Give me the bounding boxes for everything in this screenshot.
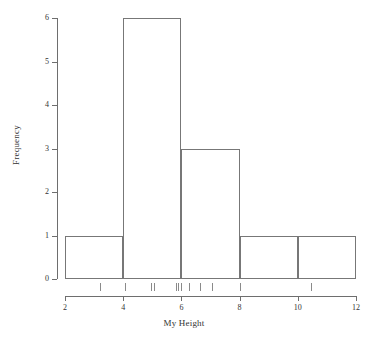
rug-mark (240, 283, 241, 291)
rug-mark (176, 283, 177, 291)
rug-mark (181, 283, 182, 291)
y-axis-title: Frequency (11, 105, 21, 185)
rug-mark (212, 283, 213, 291)
rug-mark (154, 283, 155, 291)
x-axis-title: My Height (0, 318, 368, 328)
rug-plot (0, 0, 368, 341)
rug-mark (151, 283, 152, 291)
rug-mark (125, 283, 126, 291)
rug-mark (311, 283, 312, 291)
rug-mark (189, 283, 190, 291)
rug-mark (178, 283, 179, 291)
rug-mark (100, 283, 101, 291)
rug-mark (200, 283, 201, 291)
histogram-figure: 0123456 24681012 My Height Frequency (0, 0, 368, 341)
